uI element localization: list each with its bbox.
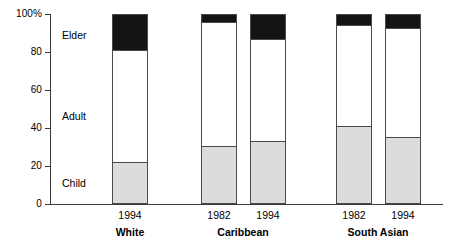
bar-segment-adult — [251, 40, 285, 143]
y-tick-mark-20 — [45, 166, 50, 167]
bar-segment-child — [251, 141, 285, 203]
bar-segment-elder — [113, 15, 147, 51]
x-group-southasian: South Asian — [308, 226, 448, 238]
bar-southasian-1982 — [336, 14, 372, 204]
bar-southasian-1994 — [385, 14, 421, 204]
y-tick-label-60: 60 — [31, 85, 42, 95]
x-axis-line — [50, 204, 443, 205]
bar-segment-adult — [337, 26, 371, 129]
series-label-elder: Elder — [62, 30, 87, 41]
y-tick-mark-80 — [45, 52, 50, 53]
bar-segment-elder — [386, 15, 420, 29]
bar-segment-child — [337, 126, 371, 203]
bar-segment-elder — [337, 15, 371, 26]
x-year-caribbean-1994: 1994 — [238, 209, 298, 221]
x-group-caribbean: Caribbean — [173, 226, 313, 238]
bar-caribbean-1994 — [250, 14, 286, 204]
bar-segment-child — [386, 137, 420, 203]
bar-segment-child — [113, 162, 147, 203]
y-tick-label-80: 80 — [31, 47, 42, 57]
y-tick-label-100: 100% — [16, 9, 42, 19]
series-label-child: Child — [62, 178, 86, 189]
bar-caribbean-1982 — [201, 14, 237, 204]
y-axis-line — [50, 14, 51, 204]
bar-segment-elder — [202, 15, 236, 23]
bar-segment-adult — [113, 51, 147, 164]
bar-segment-adult — [386, 29, 420, 139]
y-tick-label-20: 20 — [31, 161, 42, 171]
stacked-bar-chart: 100% 80 60 40 20 0 Elder Adult Child — [0, 0, 451, 250]
series-label-adult: Adult — [62, 111, 86, 122]
y-tick-mark-100 — [45, 14, 50, 15]
y-tick-mark-40 — [45, 128, 50, 129]
bar-segment-adult — [202, 23, 236, 148]
bar-segment-child — [202, 146, 236, 203]
x-year-white-1994: 1994 — [100, 209, 160, 221]
y-tick-label-40: 40 — [31, 123, 42, 133]
bar-white-1994 — [112, 14, 148, 204]
y-tick-label-0: 0 — [36, 199, 42, 209]
x-year-southasian-1994: 1994 — [373, 209, 433, 221]
y-tick-mark-60 — [45, 90, 50, 91]
bar-segment-elder — [251, 15, 285, 40]
